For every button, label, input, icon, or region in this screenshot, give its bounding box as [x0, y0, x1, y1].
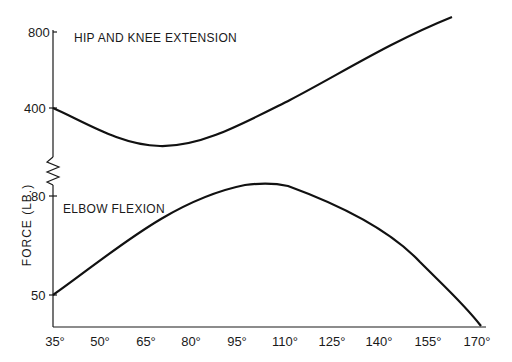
x-tick-155: 155°: [415, 334, 442, 349]
x-tick-95: 95°: [227, 334, 247, 349]
axis-break-icon: [47, 157, 59, 185]
series-label-hip-knee: HIP AND KNEE EXTENSION: [74, 31, 237, 45]
x-tick-50: 50°: [90, 334, 110, 349]
x-tick-170: 170°: [464, 334, 491, 349]
series-label-elbow: ELBOW FLEXION: [63, 202, 165, 216]
x-tick-125: 125°: [319, 334, 346, 349]
y-tick-400: 400: [24, 101, 46, 116]
y-tick-50: 50: [31, 288, 45, 303]
force-angle-chart: 800 400 80 50 FORCE (LB.) HIP AND KNEE E…: [0, 0, 512, 362]
x-tick-35: 35°: [45, 334, 65, 349]
y-axis-title: FORCE (LB.): [20, 184, 34, 266]
y-tick-800: 800: [28, 25, 50, 40]
y-axis: [47, 30, 59, 327]
x-tick-110: 110°: [272, 334, 298, 349]
x-tick-labels: 35° 50° 65° 80° 95° 110° 125° 140° 155° …: [45, 334, 490, 349]
x-tick-80: 80°: [181, 334, 201, 349]
x-tick-140: 140°: [366, 334, 393, 349]
x-tick-65: 65°: [136, 334, 156, 349]
